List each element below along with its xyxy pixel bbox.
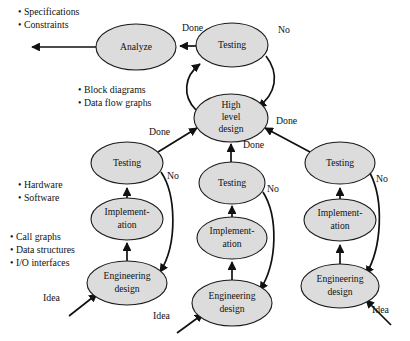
annotation-implementation-outputs: • Hardware • Software [18, 179, 63, 203]
edge-label-no-center: No [267, 183, 279, 194]
node-high-level-design[interactable]: High level design [194, 94, 268, 142]
edge-label-idea-left: Idea [43, 292, 61, 303]
annotation-analyze-outputs-item-1: • Specifications [18, 6, 80, 17]
node-engineering-design-center-label-1: Engineering [209, 290, 256, 301]
node-high-level-design-label-2: level [222, 111, 241, 122]
annotation-hld-outputs-item-1: • Block diagrams [78, 84, 146, 95]
node-implementation-right-label-1: Implement- [318, 207, 363, 218]
annotation-hld-outputs-item-2: • Data flow graphs [78, 97, 152, 108]
edge-label-no-top: No [278, 24, 290, 35]
node-testing-center[interactable]: Testing [199, 162, 265, 204]
node-testing-right-label: Testing [326, 157, 354, 168]
edge-testing-top-no-to-hld [258, 56, 274, 107]
node-engineering-design-left-label-2: design [114, 283, 139, 294]
node-engineering-design-right-label-1: Engineering [317, 273, 364, 284]
node-implementation-right[interactable]: Implement- ation [304, 199, 376, 241]
node-testing-top[interactable]: Testing [196, 23, 268, 67]
node-testing-left-label: Testing [113, 157, 141, 168]
node-implementation-left-label-2: ation [117, 219, 136, 230]
edge-hld-to-testing-top [187, 64, 200, 110]
node-engineering-design-left-label-1: Engineering [104, 270, 151, 281]
node-engineering-design-center[interactable]: Engineering design [192, 280, 272, 326]
node-testing-top-label: Testing [218, 39, 246, 50]
annotation-impl-outputs-item-1: • Hardware [18, 179, 63, 190]
annotation-engdes-outputs-item-2: • Data structures [10, 244, 75, 255]
node-testing-right[interactable]: Testing [305, 142, 375, 184]
edge-label-done-top: Done [182, 22, 204, 33]
node-testing-center-label: Testing [218, 177, 246, 188]
edge-idea-to-engdes-center [177, 314, 203, 333]
edge-label-no-left: No [167, 170, 179, 181]
nodes-layer: Analyze Testing High level design Testin… [87, 23, 379, 326]
edge-label-done-left: Done [149, 126, 171, 137]
annotation-analyze-outputs: • Specifications • Constraints [18, 6, 80, 30]
node-implementation-left[interactable]: Implement- ation [91, 198, 163, 240]
annotation-engdes-outputs-item-1: • Call graphs [10, 231, 61, 242]
annotation-engdes-outputs-item-3: • I/O interfaces [10, 257, 70, 268]
node-high-level-design-label-1: High [221, 99, 240, 110]
node-implementation-left-label-1: Implement- [105, 206, 150, 217]
node-implementation-right-label-2: ation [330, 220, 349, 231]
annotation-engineering-design-outputs: • Call graphs • Data structures • I/O in… [10, 231, 75, 268]
node-engineering-design-center-label-2: design [219, 303, 244, 314]
edge-label-idea-center: Idea [153, 310, 171, 321]
edge-label-done-center: Done [243, 139, 265, 150]
node-high-level-design-label-3: design [218, 123, 243, 134]
design-process-diagram: Analyze --> Testing (top), curved up-lef… [0, 0, 410, 341]
node-implementation-center-label-2: ation [222, 238, 241, 249]
edge-label-done-hld-right: Done [276, 115, 298, 126]
node-engineering-design-left[interactable]: Engineering design [87, 261, 167, 305]
edge-label-no-right: No [376, 173, 388, 184]
node-implementation-center-label-1: Implement- [210, 225, 255, 236]
annotation-impl-outputs-item-2: • Software [18, 192, 60, 203]
edge-label-idea-right: Idea [372, 304, 390, 315]
node-analyze[interactable]: Analyze [96, 24, 176, 70]
edge-testing-right-done-to-hld [265, 128, 310, 152]
annotation-analyze-outputs-item-2: • Constraints [18, 19, 69, 30]
node-analyze-label: Analyze [120, 41, 152, 52]
node-engineering-design-right[interactable]: Engineering design [301, 264, 379, 308]
node-engineering-design-right-label-2: design [327, 286, 352, 297]
node-implementation-center[interactable]: Implement- ation [197, 217, 267, 259]
node-testing-left[interactable]: Testing [91, 142, 163, 184]
edge-idea-to-engdes-left [69, 294, 97, 316]
annotation-high-level-design-outputs: • Block diagrams • Data flow graphs [78, 84, 152, 108]
